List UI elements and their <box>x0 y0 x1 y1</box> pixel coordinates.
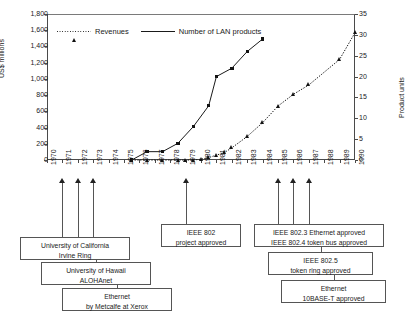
data-point-marker <box>245 134 249 138</box>
left-axis-tick-mark <box>44 79 47 80</box>
annotation-link <box>96 260 97 262</box>
x-axis-tick-mark <box>47 160 48 163</box>
annotation-box-ethernet-10baset: Ethernet10BASE-T approved <box>281 280 386 303</box>
data-point-marker <box>306 82 310 86</box>
annotation-text-line: ALOHAnet <box>46 276 146 286</box>
x-axis-tick-label: 1984 <box>266 149 273 165</box>
x-axis-tick-mark <box>247 160 248 163</box>
annotation-box-ieee-8023-8024: IEEE 802.3 Ethernet approvedIEEE 802.4 t… <box>254 224 384 247</box>
data-point-marker <box>192 125 195 128</box>
x-axis-tick-label: 1982 <box>235 149 242 165</box>
legend-swatch-lan-products <box>141 28 175 36</box>
annotation-text-line: IEEE 802 <box>166 228 236 238</box>
left-axis-tick-label: 200 <box>0 140 48 147</box>
x-axis-tick-mark <box>263 160 264 163</box>
annotation-connector <box>78 183 79 237</box>
x-axis-tick-mark <box>93 160 94 163</box>
annotation-text-line: token ring approved <box>273 266 368 276</box>
left-axis-tick-label: 1,400 <box>0 42 48 49</box>
right-axis-tick-label: 5 <box>359 135 389 142</box>
data-point-marker <box>183 158 187 162</box>
legend-label-lan-products: Number of LAN products <box>179 27 262 36</box>
data-point-marker <box>246 50 249 53</box>
data-point-marker <box>199 157 203 161</box>
annotation-box-ieee-8025-token-ring: IEEE 802.5token ring approved <box>268 252 373 275</box>
data-point-marker <box>145 150 148 153</box>
left-axis-tick-mark <box>44 63 47 64</box>
left-axis-tick-mark <box>44 46 47 47</box>
annotation-connector <box>293 183 294 224</box>
x-axis-tick-mark <box>324 160 325 163</box>
x-axis-tick-label: 1988 <box>327 149 334 165</box>
right-axis-tick-mark <box>355 118 358 119</box>
x-axis-tick-mark <box>155 160 156 163</box>
x-axis-tick-mark <box>62 160 63 163</box>
annotation-box-ethernet-metcalfe: Ethernetby Metcalfe at Xerox <box>62 288 172 311</box>
x-axis-tick-mark <box>309 160 310 163</box>
x-axis-tick-mark <box>109 160 110 163</box>
annotation-link <box>334 275 335 280</box>
right-axis-tick-label: 35 <box>359 10 389 17</box>
right-axis-tick-mark <box>355 56 358 57</box>
annotation-link <box>321 247 322 252</box>
chart-legend: Revenues Number of LAN products <box>57 27 261 36</box>
left-axis-tick-label: 1,800 <box>0 10 48 17</box>
annotation-text-line: Ethernet <box>286 284 381 294</box>
right-axis-tick-mark <box>355 35 358 36</box>
annotation-text-line: IEEE 802.3 Ethernet approved <box>259 228 379 238</box>
x-axis-tick-mark <box>139 160 140 163</box>
annotation-text-line: University of California <box>25 241 125 251</box>
left-axis-tick-mark <box>44 95 47 96</box>
chart-container: US$ millions Product units 0200400600800… <box>0 0 413 317</box>
x-axis-tick-mark <box>293 160 294 163</box>
left-axis-tick-mark <box>44 14 47 15</box>
data-point-marker <box>215 75 218 78</box>
data-point-marker <box>176 158 180 162</box>
annotation-box-hawaii-alohanet: University of HawaiiALOHAnet <box>41 262 151 285</box>
annotation-connector <box>62 183 63 237</box>
right-axis-tick-mark <box>355 97 358 98</box>
x-axis-tick-mark <box>278 160 279 163</box>
x-axis-tick-mark <box>124 160 125 163</box>
left-axis-tick-label: 0 <box>0 156 48 163</box>
x-axis-tick-label: 1983 <box>250 149 257 165</box>
data-point-marker <box>145 158 149 162</box>
data-point-marker <box>353 30 357 34</box>
x-axis-tick-mark <box>216 160 217 163</box>
data-point-marker <box>337 57 341 61</box>
x-axis-tick-label: 1989 <box>343 149 350 165</box>
left-axis-tick-label: 400 <box>0 124 48 131</box>
right-axis-tick-label: 25 <box>359 52 389 59</box>
data-point-marker <box>276 104 280 108</box>
right-axis-tick-label: 30 <box>359 31 389 38</box>
x-axis-tick-label: 1974 <box>112 149 119 165</box>
data-point-marker <box>191 158 195 162</box>
annotation-text-line: IEEE 802.4 token bus approved <box>259 238 379 248</box>
x-axis-tick-label: 1970 <box>50 149 57 165</box>
annotation-box-ieee-802-project: IEEE 802project approved <box>161 224 241 247</box>
data-point-marker <box>230 67 233 70</box>
data-point-marker <box>260 120 264 124</box>
x-axis-tick-label: 1986 <box>296 149 303 165</box>
annotation-text-line: Irvine Ring <box>25 251 125 261</box>
x-axis-tick-mark <box>355 160 356 163</box>
annotation-text-line: 10BASE-T approved <box>286 294 381 304</box>
x-axis-tick-mark <box>232 160 233 163</box>
data-point-marker <box>160 158 164 162</box>
x-axis-tick-label: 1985 <box>281 149 288 165</box>
data-point-marker <box>130 158 133 161</box>
left-axis-tick-mark <box>44 128 47 129</box>
annotation-text-line: by Metcalfe at Xerox <box>67 302 167 312</box>
data-point-marker <box>229 145 233 149</box>
x-axis-tick-label: 1987 <box>312 149 319 165</box>
x-axis-tick-mark <box>170 160 171 163</box>
data-point-marker <box>261 37 264 40</box>
right-axis-tick-mark <box>355 77 358 78</box>
x-axis-tick-label: 1971 <box>65 149 72 165</box>
right-axis-tick-label: 10 <box>359 114 389 121</box>
x-axis-tick-label: 1972 <box>81 149 88 165</box>
annotation-connector <box>186 183 187 224</box>
data-point-marker <box>161 150 164 153</box>
triangle-marker-icon <box>72 29 76 42</box>
legend-swatch-revenues <box>57 28 91 36</box>
